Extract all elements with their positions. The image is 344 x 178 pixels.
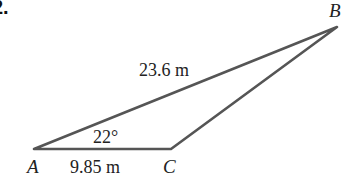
vertex-a-label: A	[25, 156, 39, 177]
triangle-outline	[34, 27, 337, 149]
triangle-diagram: 2. 23.6 m 9.85 m 22° A C B	[0, 0, 344, 178]
side-ab-length: 23.6 m	[139, 60, 189, 80]
vertex-b-label: B	[329, 0, 341, 21]
angle-a-measure: 22°	[93, 127, 118, 147]
vertex-c-label: C	[163, 156, 176, 177]
problem-number: 2.	[0, 0, 9, 18]
side-ac-length: 9.85 m	[70, 157, 120, 177]
